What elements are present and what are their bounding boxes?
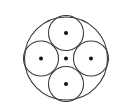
center-dot-left-center — [39, 57, 43, 61]
circles-diagram — [0, 0, 114, 107]
center-dots — [39, 31, 93, 86]
center-dot-outer-center — [64, 57, 68, 61]
center-dot-right-center — [89, 57, 93, 61]
center-dot-top-center — [64, 31, 68, 35]
center-dot-bottom-center — [64, 82, 68, 86]
